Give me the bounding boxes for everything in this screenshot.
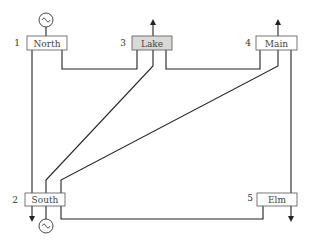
- load-arrow-south: [29, 206, 35, 222]
- bus-south: South 2: [12, 193, 65, 206]
- bus-main: Main 4: [245, 36, 297, 50]
- bus-number: 1: [14, 38, 20, 48]
- bus-number: 4: [245, 38, 251, 48]
- load-arrow-lake: [150, 19, 156, 36]
- bus-name: Elm: [268, 195, 286, 205]
- bus-number: 5: [247, 193, 253, 203]
- bus-name: Lake: [141, 39, 163, 49]
- bus-lake: Lake 3: [120, 36, 172, 50]
- load-arrow-main: [275, 19, 281, 36]
- bus-name: Main: [265, 39, 288, 49]
- line-lake-south: [46, 50, 153, 193]
- bus-number: 2: [12, 195, 18, 205]
- line-south-elm: [61, 206, 263, 219]
- line-lake-main: [166, 50, 260, 69]
- bus-number: 3: [120, 38, 126, 48]
- bus-name: South: [32, 195, 59, 205]
- bus-elm: Elm 5: [247, 193, 297, 206]
- generator-south: [39, 206, 53, 233]
- load-arrow-elm: [288, 206, 294, 222]
- generator-north: [39, 13, 53, 36]
- line-main-south: [61, 50, 278, 193]
- power-system-diagram: North 1 Lake 3 Main 4 South 2 Elm 5: [0, 0, 311, 243]
- bus-name: North: [33, 39, 60, 49]
- line-north-lake: [62, 50, 137, 69]
- bus-north: North 1: [14, 36, 67, 50]
